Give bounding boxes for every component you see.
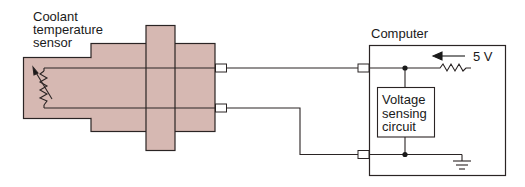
- circuit-label-line-3: circuit: [382, 120, 427, 134]
- computer-pin-ground: [358, 151, 369, 159]
- junction-dot-top: [402, 65, 407, 70]
- sensor-pin-ground: [216, 104, 227, 112]
- sensor-label: Coolant temperature sensor: [33, 10, 103, 49]
- sensor-connector-pins: [216, 64, 227, 112]
- computer-connector-pins: [358, 64, 369, 159]
- circuit-label-line-1: Voltage: [382, 93, 427, 107]
- mounting-flange: [146, 26, 175, 151]
- computer-pin-signal: [358, 64, 369, 72]
- circuit-label-line-2: sensing: [382, 107, 427, 121]
- ground-return-wire: [227, 108, 359, 155]
- sensor-tip: [24, 58, 92, 119]
- voltage-sensing-circuit-label: Voltage sensing circuit: [382, 93, 427, 134]
- sensor-pin-signal: [216, 64, 227, 72]
- supply-voltage-label: 5 V: [473, 50, 493, 63]
- computer-label: Computer: [371, 27, 428, 40]
- harness-wires: [227, 68, 359, 155]
- junction-dot-bottom: [402, 152, 407, 157]
- sensor-label-line-3: sensor: [33, 36, 103, 49]
